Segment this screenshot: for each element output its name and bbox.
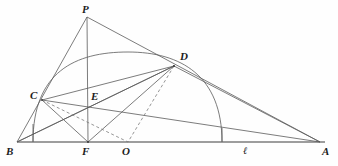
point-label-E: E bbox=[91, 91, 98, 102]
point-label-F: F bbox=[82, 146, 89, 157]
point-label-O: O bbox=[122, 146, 130, 157]
point-label-D: D bbox=[180, 51, 188, 62]
segment-D-B-lower bbox=[17, 66, 174, 142]
point-label-A: A bbox=[322, 146, 329, 157]
point-label-B: B bbox=[6, 146, 13, 157]
point-dot-D bbox=[173, 65, 175, 67]
point-dot-C bbox=[41, 99, 43, 101]
point-label-C: C bbox=[30, 90, 37, 101]
point-label-P: P bbox=[82, 4, 89, 15]
geometry-canvas bbox=[0, 0, 338, 166]
segment-C-A bbox=[42, 100, 320, 142]
point-label-line-ell: ℓ bbox=[243, 146, 247, 156]
geometry-figure: P D C E B F O ℓ A bbox=[0, 0, 338, 166]
segment-P-F bbox=[87, 17, 88, 142]
main-circle-arc bbox=[33, 52, 222, 142]
point-dot-F bbox=[87, 141, 89, 143]
segment-B-P bbox=[17, 17, 87, 142]
